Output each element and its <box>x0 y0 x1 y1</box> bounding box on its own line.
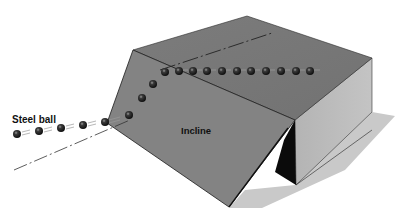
steel-ball <box>35 127 43 135</box>
steel-ball <box>262 67 270 75</box>
steel-ball <box>306 67 314 75</box>
steel-ball <box>247 67 255 75</box>
steel-ball <box>57 124 65 132</box>
steel-ball <box>149 80 157 88</box>
incline-diagram <box>0 0 406 218</box>
steel-ball <box>189 67 197 75</box>
steel-ball <box>125 111 133 119</box>
steel-ball <box>292 67 300 75</box>
incline-label: Incline <box>181 125 211 136</box>
steel-ball <box>218 67 226 75</box>
steel-ball <box>277 67 285 75</box>
steel-ball-label: Steel ball <box>12 114 56 125</box>
steel-ball <box>161 68 169 76</box>
steel-ball <box>13 130 21 138</box>
steel-ball <box>101 118 109 126</box>
steel-ball <box>203 67 211 75</box>
steel-ball <box>79 121 87 129</box>
steel-ball <box>138 94 146 102</box>
steel-ball <box>233 67 241 75</box>
steel-ball <box>175 67 183 75</box>
